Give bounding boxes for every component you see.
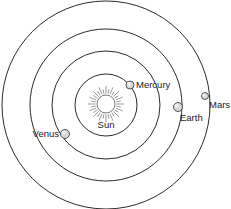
planet-venus: Venus [33,128,70,139]
mercury-label: Mercury [136,79,171,90]
mars-label: Mars [209,99,230,110]
sun-icon [88,86,124,122]
solar-system-diagram: Sun MercuryVenusEarthMars [0,0,230,209]
venus-label: Venus [33,128,60,139]
sun-label: Sun [98,119,115,130]
planet-mercury: Mercury [126,79,171,90]
planet-mars: Mars [202,93,231,111]
earth-label: Earth [180,112,203,123]
planet-earth: Earth [174,103,203,124]
planets-group: MercuryVenusEarthMars [33,79,230,139]
